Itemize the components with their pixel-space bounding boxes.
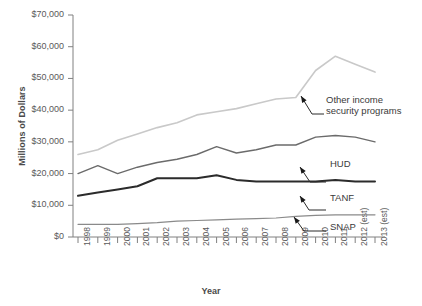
annotation-snap: SNAP xyxy=(330,221,356,232)
line-chart: Millions of Dollars $70,000$60,000$50,00… xyxy=(0,0,422,306)
annotation-hud: HUD xyxy=(330,158,351,169)
annotation-tanf: TANF xyxy=(330,192,354,203)
annotation-leader-hud xyxy=(300,167,326,182)
annotation-arrowhead-tanf xyxy=(300,196,306,203)
annotation-leader-tanf xyxy=(300,196,326,210)
annotation-leader-snap xyxy=(294,217,326,231)
x-axis-ticks xyxy=(78,237,375,243)
plot-area xyxy=(0,0,422,306)
annotation-other-line1: Other income xyxy=(326,94,383,105)
annotation-leaders xyxy=(294,96,326,231)
annotation-other-income-security-programs: Other incomesecurity programs xyxy=(326,94,402,116)
y-axis-ticks xyxy=(68,15,73,237)
annotation-arrowhead-other-income-security-programs xyxy=(301,96,307,103)
annotation-other-line2: security programs xyxy=(326,105,402,116)
annotation-arrowhead-snap xyxy=(294,217,300,224)
annotation-arrowhead-hud xyxy=(300,167,306,174)
x-axis-title: Year xyxy=(0,286,422,296)
